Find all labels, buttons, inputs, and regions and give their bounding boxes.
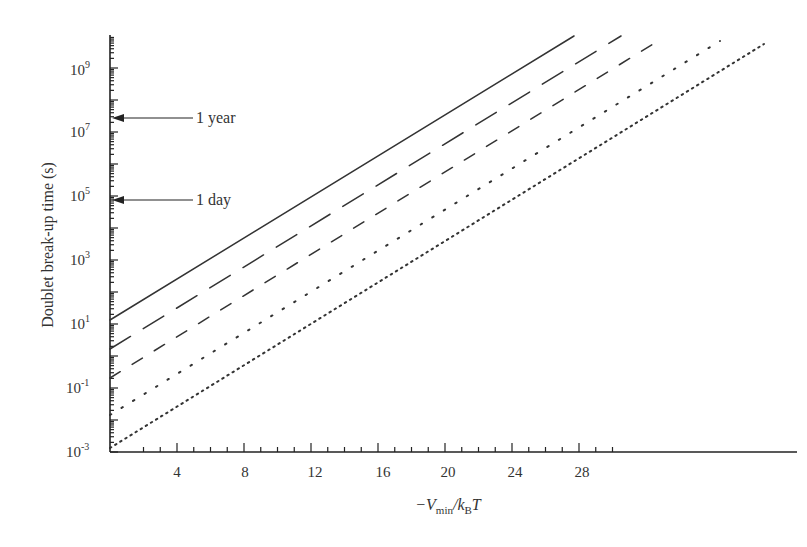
annotation-1-year: 1 year [112,109,236,127]
svg-text:105: 105 [70,185,90,204]
y-axis-label: Doublet break-up time (s) [39,162,57,328]
svg-text:107: 107 [70,121,90,140]
series [110,36,764,448]
svg-text:1 year: 1 year [196,109,236,127]
svg-text:16: 16 [376,464,392,480]
series-medium-dash [110,41,658,378]
x-tick-labels: 4 8 12 16 20 24 28 [173,464,589,480]
svg-text:10-3: 10-3 [66,441,89,460]
svg-text:4: 4 [173,464,181,480]
axes [110,35,797,452]
y-tick-labels: 10-3 10-1 101 103 105 107 109 [66,59,90,460]
svg-text:20: 20 [441,464,456,480]
y-minor-ticks [110,37,118,452]
svg-text:8: 8 [241,464,249,480]
series-dense-dot [110,44,764,448]
svg-text:28: 28 [575,464,590,480]
series-solid [110,36,574,320]
annotation-1-day: 1 day [112,191,231,209]
chart: 10-3 10-1 101 103 105 107 109 4 8 12 16 … [0,0,807,547]
svg-text:109: 109 [70,59,90,78]
svg-text:101: 101 [70,313,90,332]
svg-text:12: 12 [308,464,323,480]
series-sparse-dot [110,41,720,415]
svg-text:1 day: 1 day [196,191,231,209]
series-long-dash [110,36,621,349]
x-ticks [144,443,613,452]
svg-text:24: 24 [508,464,524,480]
svg-text:10-1: 10-1 [66,377,89,396]
svg-text:103: 103 [70,249,90,268]
x-axis-label: −Vmin/kBT [415,496,482,516]
